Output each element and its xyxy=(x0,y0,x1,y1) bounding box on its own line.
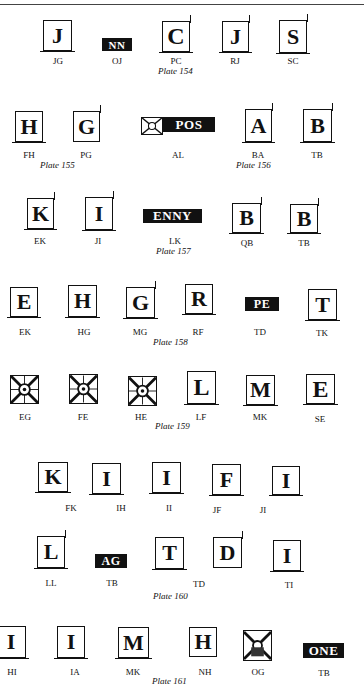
mark-code: FH xyxy=(9,150,49,160)
mark-glyph: E xyxy=(312,376,328,403)
mark-box: A xyxy=(245,109,272,142)
plate-label: Plate 157 xyxy=(156,246,191,256)
mark-glyph: I xyxy=(67,629,76,655)
mark-code: LK xyxy=(155,236,195,246)
mark-box: M xyxy=(246,375,275,405)
mark-baseline xyxy=(149,493,184,495)
mark-code: FE xyxy=(63,412,103,422)
mark-code: SE xyxy=(300,414,340,424)
plate-label: Plate 160 xyxy=(153,591,188,601)
mark-code: AL xyxy=(158,150,198,160)
mark-glyph: E xyxy=(17,289,32,315)
sun-emblem-icon xyxy=(128,376,157,406)
sun-emblem-icon xyxy=(10,375,39,404)
mark-post xyxy=(65,530,67,538)
mark-post xyxy=(261,197,263,205)
mark-code: IH xyxy=(101,503,141,513)
mark-code: OG xyxy=(238,667,278,677)
mark-post xyxy=(155,281,157,289)
sun-emblem-icon xyxy=(243,630,272,661)
mark-baseline xyxy=(7,317,41,319)
sun-emblem-icon xyxy=(69,374,98,404)
mark-box: I xyxy=(0,626,26,658)
mark-code: HG xyxy=(64,327,104,337)
mark-post xyxy=(242,531,244,539)
mark-glyph: G xyxy=(132,290,149,316)
mark-baseline xyxy=(269,495,303,497)
mark-box: B xyxy=(290,204,318,233)
mark-glyph: ONE xyxy=(309,643,339,659)
sun-icon xyxy=(244,631,271,660)
mark-glyph: H xyxy=(194,629,211,655)
mark-code: FK xyxy=(51,503,91,513)
mark-baseline xyxy=(40,51,75,53)
mark-baseline xyxy=(65,317,100,319)
plate-label: Plate 154 xyxy=(158,66,193,76)
mark-glyph: G xyxy=(78,114,95,140)
mark-box: H xyxy=(68,285,97,317)
mark-baseline xyxy=(34,568,68,570)
mark-inverse: PE xyxy=(245,297,279,311)
mark-code: TB xyxy=(297,150,337,160)
mark-code: HI xyxy=(0,667,32,677)
mark-inverse: POS xyxy=(163,117,215,132)
mark-baseline xyxy=(276,53,310,55)
mark-baseline xyxy=(182,314,216,316)
mark-glyph: S xyxy=(287,24,299,50)
mark-baseline xyxy=(242,142,275,144)
plate-text: Plate 158 xyxy=(153,337,188,347)
mark-code: TK xyxy=(302,328,342,338)
mark-glyph: I xyxy=(102,466,111,492)
mark-baseline xyxy=(300,142,335,144)
mark-baseline xyxy=(184,404,219,406)
mark-baseline xyxy=(159,52,193,54)
mark-inverse: NN xyxy=(102,38,132,51)
page-top-rule xyxy=(0,4,364,5)
mark-box: S xyxy=(279,20,307,53)
mark-box: I xyxy=(57,626,85,658)
mark-glyph: I xyxy=(95,201,104,227)
plate-label: Plate 159 xyxy=(155,421,190,431)
mark-code: TD xyxy=(179,579,219,589)
mark-box: R xyxy=(185,284,213,314)
sun-icon xyxy=(129,377,156,405)
sun-icon xyxy=(70,375,97,403)
mark-code: EK xyxy=(5,327,45,337)
mark-post xyxy=(249,15,251,23)
mark-box: J xyxy=(222,21,249,52)
mark-code: TB xyxy=(92,578,132,588)
mark-glyph: PE xyxy=(254,297,270,312)
mark-box: K xyxy=(38,462,68,492)
mark-code: EG xyxy=(5,412,45,422)
plate-text: Plate 160 xyxy=(153,591,188,601)
plate-text: Plate 161 xyxy=(152,676,187,686)
mark-inverse: ENNY xyxy=(143,209,202,223)
mark-box: D xyxy=(213,537,242,568)
mark-glyph: I xyxy=(283,543,292,569)
mark-post xyxy=(54,192,56,200)
mark-code: RJ xyxy=(215,56,255,66)
mark-box: I xyxy=(85,197,113,230)
mark-post xyxy=(190,15,192,23)
mark-box: I xyxy=(273,540,301,571)
mark-code: BA xyxy=(238,150,278,160)
mark-code: SC xyxy=(273,56,313,66)
mark-box: H xyxy=(15,111,43,142)
plate-text: Plate 154 xyxy=(158,66,193,76)
mark-glyph: J xyxy=(230,24,241,50)
mark-glyph: R xyxy=(191,286,207,312)
mark-glyph: L xyxy=(44,539,59,565)
mark-box: L xyxy=(37,536,65,568)
plate-text: Plate 157 xyxy=(156,246,191,256)
mark-glyph: A xyxy=(251,113,267,139)
mark-code: NH xyxy=(185,667,225,677)
mark-glyph: POS xyxy=(176,117,203,133)
mark-box: C xyxy=(162,21,190,52)
mark-box: L xyxy=(187,371,216,404)
mark-code: PC xyxy=(156,56,196,66)
mark-baseline xyxy=(243,405,278,407)
mark-glyph: J xyxy=(52,23,63,49)
mark-code: RF xyxy=(178,327,218,337)
mark-code: PG xyxy=(66,150,106,160)
mark-box: F xyxy=(212,464,241,495)
